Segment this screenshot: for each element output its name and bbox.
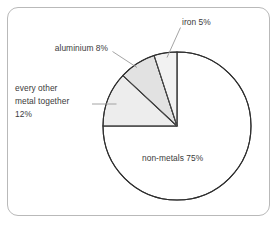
label-every-other-metal-line2: metal together: [15, 96, 69, 106]
label-every-other-metal-line1: every other: [15, 83, 58, 93]
label-iron: iron 5%: [182, 17, 211, 27]
label-non-metals: non-metals 75%: [142, 153, 204, 163]
leader-line-aluminium: [113, 52, 138, 68]
label-aluminium: aluminium 8%: [55, 43, 109, 53]
label-every-other-metal-line3: 12%: [15, 109, 32, 119]
pie-chart: iron 5% aluminium 8% every other metal t…: [0, 0, 279, 225]
figure-root: iron 5% aluminium 8% every other metal t…: [0, 0, 279, 225]
